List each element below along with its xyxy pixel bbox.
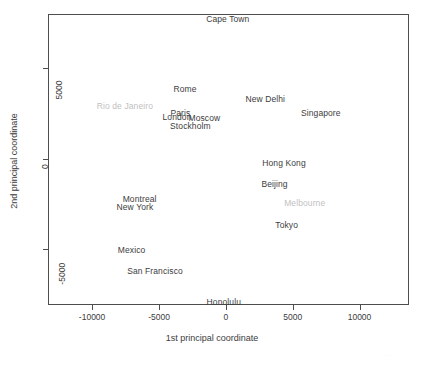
scatter-points-layer: Cape TownRomeNew DelhiRio de JaneiroPari… — [48, 14, 409, 305]
plot-screenshot: Cape TownRomeNew DelhiRio de JaneiroPari… — [0, 0, 424, 366]
y-tick-label: 5000 — [54, 68, 64, 87]
x-tick-mark — [92, 305, 93, 310]
point-label: Rome — [173, 85, 196, 94]
y-tick-label: 0 — [40, 159, 50, 164]
x-tick-label: -5000 — [148, 312, 170, 322]
point-label: Hong Kong — [262, 159, 305, 168]
point-label: New Delhi — [245, 95, 285, 104]
y-tick-mark — [43, 68, 48, 69]
point-label: Rio de Janeiro — [97, 102, 153, 111]
x-tick-mark — [293, 305, 294, 310]
point-label: Beijing — [261, 179, 287, 188]
point-label: Tokyo — [275, 220, 298, 229]
point-label: Stockholm — [170, 122, 211, 131]
point-label: Melbourne — [284, 198, 325, 207]
y-tick-label-text: 0 — [40, 164, 50, 169]
y-tick-label-text: -5000 — [57, 263, 67, 285]
point-label: New York — [117, 202, 154, 211]
y-axis-label-text: 2nd principal coordinate — [9, 113, 19, 209]
point-label: Singapore — [301, 109, 341, 118]
point-label: Cape Town — [206, 14, 249, 23]
x-axis-label: 1st principal coordinate — [0, 333, 424, 343]
x-tick-label: 0 — [223, 312, 228, 322]
point-label: San Francisco — [127, 266, 183, 275]
x-tick-label: -10000 — [79, 312, 105, 322]
point-label: Honolulu — [207, 298, 241, 307]
y-tick-label: -5000 — [57, 249, 67, 271]
y-tick-label-text: 5000 — [54, 81, 64, 100]
x-tick-mark — [226, 305, 227, 310]
y-axis-label: 2nd principal coordinate — [8, 0, 20, 366]
x-tick-label: 10000 — [348, 312, 372, 322]
point-label: Mexico — [118, 245, 146, 254]
x-tick-mark — [360, 305, 361, 310]
render-artifact: · · — [384, 352, 391, 359]
x-tick-mark — [159, 305, 160, 310]
x-tick-label: 5000 — [283, 312, 302, 322]
y-tick-mark — [43, 249, 48, 250]
